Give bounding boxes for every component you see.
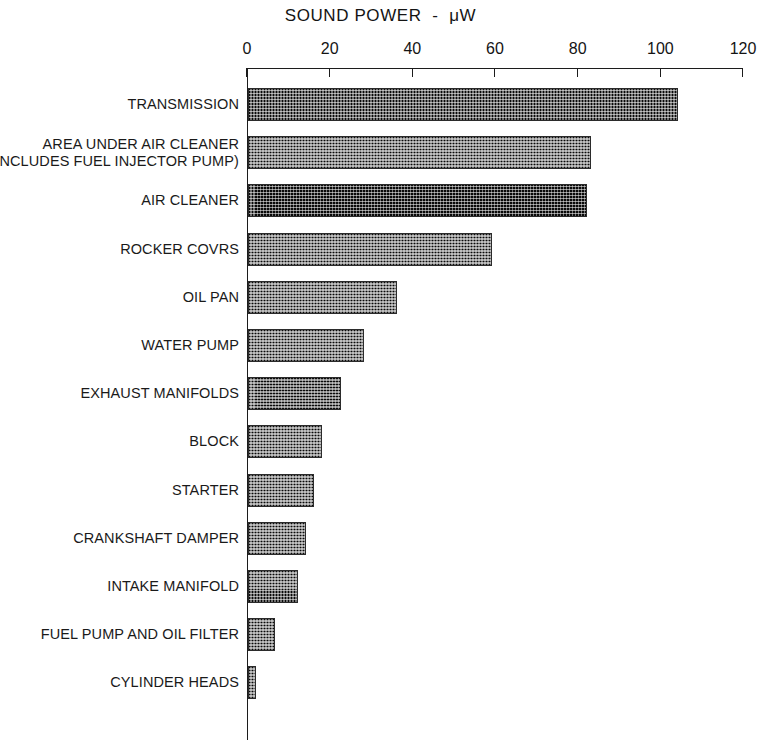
bar-row: CYLINDER HEADS <box>0 666 761 699</box>
sound-power-bar-chart: SOUND POWER - μW 020406080100120 TRANSMI… <box>0 0 761 750</box>
bar-row: WATER PUMP <box>0 329 761 362</box>
bar-row: STARTER <box>0 474 761 507</box>
bar-category-label: ROCKER COVRS <box>120 241 239 258</box>
bar-row: FUEL PUMP AND OIL FILTER <box>0 618 761 651</box>
bar <box>248 618 275 651</box>
bar <box>248 88 678 121</box>
bar-category-label: FUEL PUMP AND OIL FILTER <box>41 626 239 643</box>
bar-row: EXHAUST MANIFOLDS <box>0 377 761 410</box>
bar <box>248 666 256 699</box>
bar-category-label: TRANSMISSION <box>127 96 239 113</box>
bar-row: ROCKER COVRS <box>0 233 761 266</box>
bar <box>248 329 364 362</box>
bar <box>248 281 397 314</box>
bar-row: BLOCK <box>0 425 761 458</box>
bar-category-label: WATER PUMP <box>141 337 239 354</box>
bar-category-label: CRANKSHAFT DAMPER <box>73 530 239 547</box>
bar-category-label: OIL PAN <box>183 289 239 306</box>
bar-row: INTAKE MANIFOLD <box>0 570 761 603</box>
bar <box>248 425 322 458</box>
bar <box>248 377 341 410</box>
bar-category-label: BLOCK <box>189 433 239 450</box>
bar-row: AREA UNDER AIR CLEANER (INCLUDES FUEL IN… <box>0 136 761 169</box>
bar <box>248 474 314 507</box>
bar <box>248 184 587 217</box>
bar-row: AIR CLEANER <box>0 184 761 217</box>
bar <box>248 136 591 169</box>
bar-category-label: EXHAUST MANIFOLDS <box>80 385 239 402</box>
bar-category-label: CYLINDER HEADS <box>110 674 239 691</box>
bar-row: CRANKSHAFT DAMPER <box>0 522 761 555</box>
bar <box>248 233 492 266</box>
bar-category-label: AREA UNDER AIR CLEANER (INCLUDES FUEL IN… <box>0 136 239 170</box>
bar-row: TRANSMISSION <box>0 88 761 121</box>
bar-row: OIL PAN <box>0 281 761 314</box>
bars-container: TRANSMISSIONAREA UNDER AIR CLEANER (INCL… <box>0 0 761 750</box>
bar-category-label: INTAKE MANIFOLD <box>107 578 239 595</box>
bar-category-label: AIR CLEANER <box>141 192 239 209</box>
bar-category-label: STARTER <box>172 482 239 499</box>
bar <box>248 522 306 555</box>
bar <box>248 570 298 603</box>
